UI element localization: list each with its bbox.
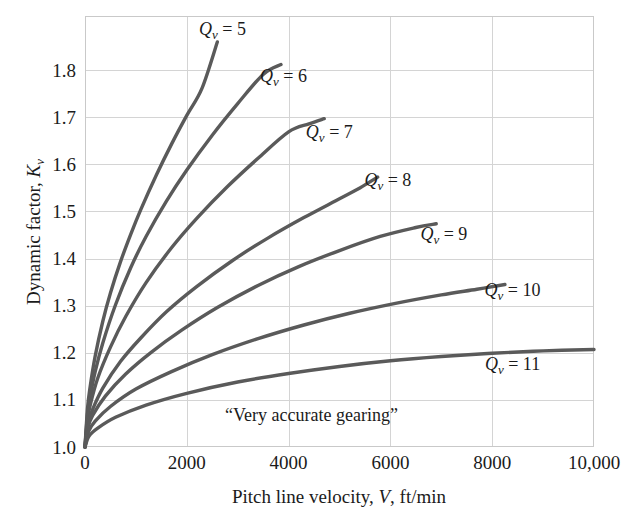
curve-label-qv-7: Qv = 7 — [306, 122, 353, 145]
y-tick-label: 1.7 — [52, 107, 76, 128]
y-axis-title: Dynamic factor, Kv — [23, 159, 47, 305]
x-tick-label: 4000 — [270, 452, 308, 473]
x-tick-label: 0 — [80, 452, 90, 473]
x-tick-label: 10,000 — [568, 452, 620, 473]
curve-label-qv-8: Qv = 8 — [364, 170, 411, 193]
y-tick-label: 1.3 — [52, 295, 76, 316]
y-axis-title-text: Dynamic factor, Kv — [23, 159, 47, 305]
curve-label-qv-6: Qv = 6 — [260, 66, 307, 89]
x-axis-title-text: Pitch line velocity, V, ft/min — [232, 486, 447, 507]
y-tick-label: 1.8 — [52, 60, 76, 81]
curve-label-qv-11: Qv = 11 — [485, 354, 540, 377]
annotations-group: “Very accurate gearing” — [225, 405, 398, 425]
curve-label-qv-10: Qv = 10 — [485, 280, 541, 303]
annotation-very-accurate-gearing: “Very accurate gearing” — [225, 405, 398, 425]
y-tick-label: 1.4 — [52, 248, 76, 269]
y-tick-label: 1.0 — [52, 437, 76, 458]
dynamic-factor-chart-figure: Qv = 5Qv = 6Qv = 7Qv = 8Qv = 9Qv = 10Qv … — [0, 0, 631, 519]
chart-canvas: Qv = 5Qv = 6Qv = 7Qv = 8Qv = 9Qv = 10Qv … — [0, 0, 631, 519]
curve-label-qv-5: Qv = 5 — [199, 19, 246, 42]
y-tick-labels-group: 1.01.11.21.31.41.51.61.71.8 — [52, 60, 76, 458]
y-tick-label: 1.6 — [52, 154, 76, 175]
x-tick-label: 8000 — [473, 452, 511, 473]
y-tick-label: 1.1 — [52, 389, 76, 410]
x-tick-label: 2000 — [168, 452, 206, 473]
x-axis-title: Pitch line velocity, V, ft/min — [232, 486, 447, 507]
y-tick-label: 1.2 — [52, 342, 76, 363]
x-tick-label: 6000 — [371, 452, 409, 473]
curve-label-qv-9: Qv = 9 — [420, 224, 467, 247]
y-tick-label: 1.5 — [52, 201, 76, 222]
